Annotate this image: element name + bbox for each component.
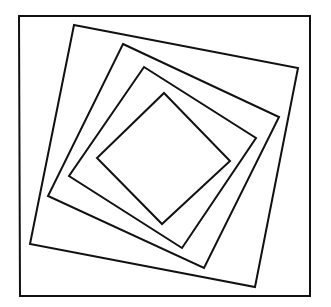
nested-squares-diagram bbox=[0, 0, 331, 307]
rotated-square-4 bbox=[97, 93, 230, 224]
outer-square bbox=[19, 16, 310, 296]
rotated-square-1 bbox=[30, 25, 298, 287]
